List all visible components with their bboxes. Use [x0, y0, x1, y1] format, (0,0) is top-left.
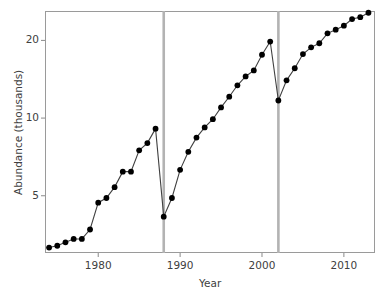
data-point [357, 14, 363, 20]
chart-canvas [0, 0, 382, 300]
data-point [54, 243, 60, 249]
data-point [243, 74, 249, 80]
data-polyline [49, 13, 368, 248]
data-point [308, 44, 314, 50]
data-point [161, 214, 167, 220]
data-point [136, 147, 142, 153]
data-point [366, 10, 372, 16]
y-tick-label: 20 [10, 33, 39, 45]
data-point [177, 167, 183, 173]
data-point [333, 27, 339, 33]
data-point [112, 184, 118, 190]
chart-figure: 51020 1980199020002010 Abundance (thousa… [0, 0, 382, 300]
x-tick-label: 1980 [73, 259, 123, 271]
data-point [259, 52, 265, 58]
data-point [87, 227, 93, 233]
data-line-group [49, 13, 368, 248]
data-point [267, 39, 273, 45]
x-tick-label: 1990 [155, 259, 205, 271]
x-tick-label: 2010 [319, 259, 369, 271]
x-tick-marks-group [98, 253, 344, 257]
data-point [284, 77, 290, 83]
data-point [275, 98, 281, 104]
data-point [104, 195, 110, 201]
data-point [325, 30, 331, 36]
data-point [46, 245, 52, 251]
data-point [349, 16, 355, 22]
data-point [185, 149, 191, 155]
data-point [341, 23, 347, 29]
data-point [79, 236, 85, 242]
y-axis-label: Abundance (thousands) [12, 69, 24, 194]
data-point [316, 40, 322, 46]
data-point [169, 195, 175, 201]
data-point [202, 125, 208, 131]
data-point [235, 82, 241, 88]
data-point [226, 94, 232, 100]
data-point [300, 51, 306, 57]
data-point [218, 105, 224, 111]
data-point [71, 236, 77, 242]
data-point [63, 239, 69, 245]
data-point [120, 169, 126, 175]
data-point [153, 126, 159, 132]
data-point [128, 169, 134, 175]
x-axis-label: Year [199, 277, 221, 289]
data-point [210, 116, 216, 122]
reference-lines-group [164, 11, 279, 253]
data-point [95, 200, 101, 206]
data-point [194, 135, 200, 141]
x-tick-label: 2000 [237, 259, 287, 271]
data-point [251, 68, 257, 74]
data-point [144, 140, 150, 146]
data-point [292, 65, 298, 71]
y-tick-marks-group [41, 40, 45, 195]
